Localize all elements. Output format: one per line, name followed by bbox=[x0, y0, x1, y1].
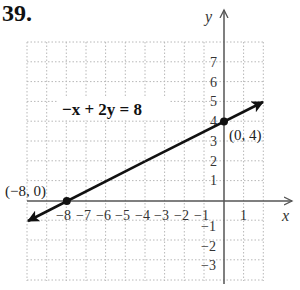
svg-text:3: 3 bbox=[210, 134, 217, 149]
svg-text:−4: −4 bbox=[135, 208, 150, 223]
x-axis-label: x bbox=[281, 207, 289, 224]
svg-text:5: 5 bbox=[210, 94, 217, 109]
point-x-intercept bbox=[63, 197, 71, 205]
graph: y x −8 −7 −6 −5 −4 −3 −2 −1 1 7 6 5 4 3 … bbox=[0, 0, 300, 290]
equation-label: −x + 2y = 8 bbox=[62, 100, 142, 119]
svg-text:−8: −8 bbox=[56, 208, 71, 223]
svg-text:−1: −1 bbox=[201, 219, 216, 234]
svg-text:−2: −2 bbox=[201, 239, 216, 254]
svg-text:−5: −5 bbox=[115, 208, 130, 223]
svg-text:−6: −6 bbox=[96, 208, 111, 223]
y-tick-labels: 7 6 5 4 3 2 1 −1 −2 −3 bbox=[201, 55, 217, 273]
svg-text:1: 1 bbox=[240, 208, 247, 223]
svg-text:7: 7 bbox=[210, 55, 217, 70]
svg-text:−7: −7 bbox=[76, 208, 91, 223]
label-x-intercept: (−8, 0) bbox=[5, 183, 46, 200]
x-tick-labels: −8 −7 −6 −5 −4 −3 −2 −1 1 bbox=[56, 208, 247, 223]
point-y-intercept bbox=[220, 118, 228, 126]
svg-text:6: 6 bbox=[210, 75, 217, 90]
label-y-intercept: (0, 4) bbox=[229, 127, 262, 144]
svg-text:−2: −2 bbox=[174, 208, 189, 223]
svg-text:−3: −3 bbox=[201, 258, 216, 273]
svg-text:−3: −3 bbox=[154, 208, 169, 223]
svg-text:1: 1 bbox=[210, 173, 217, 188]
y-axis-label: y bbox=[203, 8, 213, 26]
svg-text:2: 2 bbox=[210, 154, 217, 169]
